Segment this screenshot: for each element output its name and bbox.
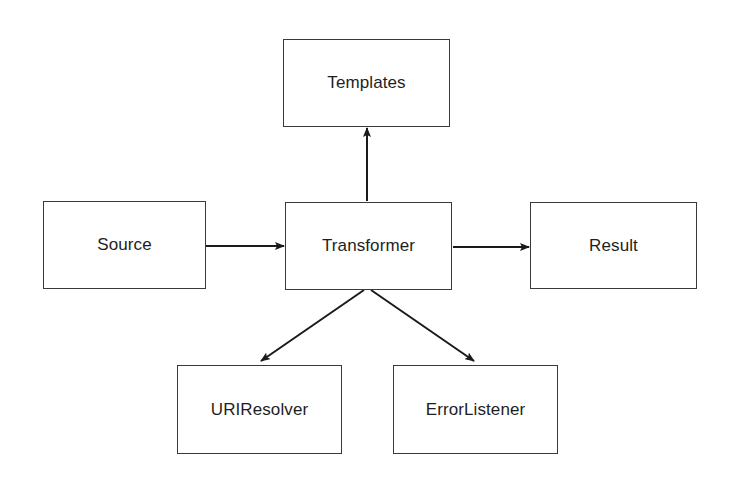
uriresolver-box: URIResolver — [177, 365, 342, 454]
source-box: Source — [43, 201, 206, 289]
templates-box: Templates — [283, 39, 450, 127]
templates-label: Templates — [327, 73, 405, 93]
diagram-canvas: Templates Source Transformer Result URIR… — [0, 0, 734, 477]
result-label: Result — [589, 236, 638, 256]
transformer-box: Transformer — [285, 202, 452, 290]
errorlistener-box: ErrorListener — [393, 365, 558, 454]
uriresolver-label: URIResolver — [211, 400, 308, 420]
arrow-transformer-to-errorlistener — [371, 290, 474, 361]
transformer-label: Transformer — [322, 236, 415, 256]
result-box: Result — [530, 202, 697, 289]
source-label: Source — [97, 235, 151, 255]
arrow-transformer-to-uriresolver — [261, 290, 364, 361]
errorlistener-label: ErrorListener — [426, 400, 526, 420]
